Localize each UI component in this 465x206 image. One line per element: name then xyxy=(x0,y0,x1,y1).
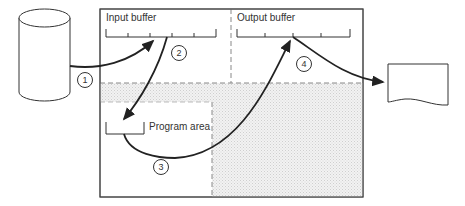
step-2-badge: 2 xyxy=(172,46,187,61)
shaded-free-area xyxy=(212,102,363,197)
shaded-band xyxy=(101,83,363,102)
svg-text:4: 4 xyxy=(301,59,306,69)
step-4-badge: 4 xyxy=(297,57,312,72)
svg-text:3: 3 xyxy=(158,162,163,172)
step-3-badge: 3 xyxy=(154,160,169,175)
buffering-diagram: Input buffer Output buffer Program area … xyxy=(0,0,465,206)
svg-text:1: 1 xyxy=(82,75,87,85)
svg-text:2: 2 xyxy=(176,48,181,58)
step-1-badge: 1 xyxy=(78,73,93,88)
printed-document-icon xyxy=(388,64,448,105)
output-buffer-label: Output buffer xyxy=(237,12,296,23)
disk-cylinder-icon xyxy=(19,9,70,101)
program-area-label: Program area xyxy=(149,121,211,132)
input-buffer-label: Input buffer xyxy=(106,12,157,23)
